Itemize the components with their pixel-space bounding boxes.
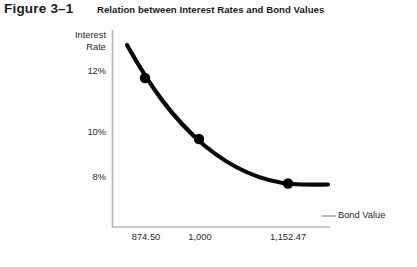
chart-plot-area: Interest Rate 12% 10% 8% 874.50 1,000 1,… <box>0 20 417 267</box>
figure-number: Figure 3–1 <box>4 1 74 16</box>
data-point-marker <box>283 178 293 188</box>
bond-value-curve <box>127 45 328 185</box>
data-point-marker <box>140 73 150 83</box>
figure-title: Relation between Interest Rates and Bond… <box>97 4 324 15</box>
data-point-marker <box>194 134 204 144</box>
chart-canvas <box>0 20 417 267</box>
figure-header: Figure 3–1 Relation between Interest Rat… <box>0 0 417 20</box>
